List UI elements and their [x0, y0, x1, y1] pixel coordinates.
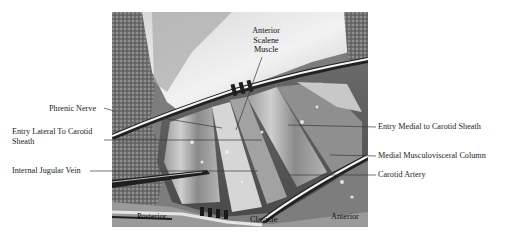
label-line: Entry Lateral To Carotid: [12, 127, 92, 137]
surgical-figure: Anterior Scalene Muscle Phrenic Nerve En…: [0, 0, 509, 234]
label-entry-medial-to-carotid-sheath: Entry Medial to Carotid Sheath: [378, 122, 481, 132]
surgical-photograph: [112, 12, 368, 227]
label-anterior: Anterior: [331, 212, 359, 222]
label-line: Sheath: [12, 137, 92, 147]
label-line: Muscle: [246, 45, 286, 55]
label-anterior-scalene-muscle: Anterior Scalene Muscle: [246, 26, 286, 55]
label-entry-lateral-to-carotid-sheath: Entry Lateral To Carotid Sheath: [12, 127, 92, 146]
label-medial-musculovisceral-column: Medial Musculovisceral Column: [378, 151, 486, 161]
surgical-field-illustration: [112, 12, 368, 227]
label-clavicle: Clavicle: [250, 215, 277, 225]
label-internal-jugular-vein: Internal Jugular Vein: [12, 166, 81, 176]
label-line: Anterior: [246, 26, 286, 36]
label-line: Scalene: [246, 36, 286, 46]
label-posterior: Posterior: [137, 212, 167, 222]
label-phrenic-nerve: Phrenic Nerve: [49, 104, 96, 114]
label-carotid-artery: Carotid Artery: [378, 170, 426, 180]
